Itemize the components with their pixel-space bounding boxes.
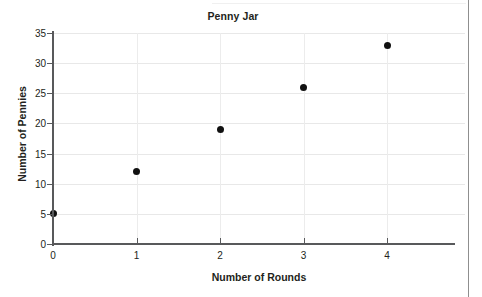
gridline-horizontal — [53, 93, 465, 94]
x-axis-tick — [220, 238, 221, 244]
gridline-horizontal — [53, 33, 465, 34]
y-axis-tick — [47, 93, 53, 94]
gridline-vertical — [137, 33, 138, 244]
x-axis-tick-label: 4 — [372, 250, 402, 261]
gridline-horizontal — [53, 214, 465, 215]
chart-figure: Penny Jar 05101520253035 01234 Number of… — [0, 0, 482, 297]
y-axis-tick — [47, 214, 53, 215]
x-axis-tick — [304, 238, 305, 244]
gridline-vertical — [304, 33, 305, 244]
x-axis-tick-label: 0 — [38, 250, 68, 261]
x-axis-tick — [137, 238, 138, 244]
gridline-horizontal — [53, 63, 465, 64]
data-point — [133, 168, 140, 175]
y-axis-tick-label: 0 — [20, 239, 46, 250]
x-axis-title: Number of Rounds — [53, 271, 465, 283]
y-axis-tick-label: 35 — [20, 28, 46, 39]
page-right-border — [468, 0, 469, 297]
gridline-horizontal — [53, 154, 465, 155]
x-axis-tick-label: 2 — [205, 250, 235, 261]
y-axis-tick — [47, 184, 53, 185]
data-point — [300, 84, 307, 91]
y-axis-tick — [47, 123, 53, 124]
plot-area — [53, 33, 465, 244]
chart-title: Penny Jar — [0, 10, 466, 22]
gridline-horizontal — [53, 123, 465, 124]
y-axis-tick — [47, 244, 53, 245]
gridline-vertical — [387, 33, 388, 244]
x-axis-tick-label: 3 — [289, 250, 319, 261]
y-axis-title: Number of Pennies — [16, 64, 28, 204]
x-axis-tick-label: 1 — [122, 250, 152, 261]
y-axis-tick — [47, 63, 53, 64]
gridline-horizontal — [53, 184, 465, 185]
y-axis-tick-label: 5 — [20, 208, 46, 219]
page-top-rule — [212, 3, 466, 4]
data-point — [217, 126, 224, 133]
x-axis-tick — [387, 238, 388, 244]
x-axis-line — [52, 243, 455, 245]
gridline-vertical — [220, 33, 221, 244]
y-axis-tick — [47, 154, 53, 155]
data-point — [384, 42, 391, 49]
y-axis-tick — [47, 33, 53, 34]
